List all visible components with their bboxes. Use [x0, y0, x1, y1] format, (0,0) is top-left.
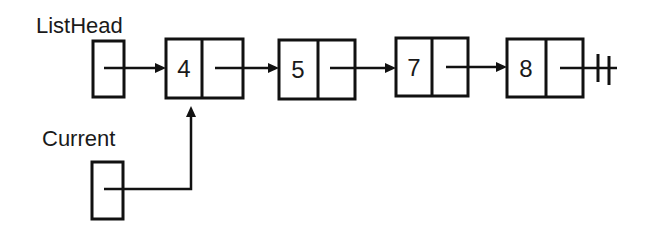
node-value: 7: [407, 54, 420, 81]
current-arrow-icon: [104, 106, 196, 189]
null-ground-icon: [560, 54, 617, 85]
node-value: 4: [177, 55, 190, 82]
node-value: 8: [519, 55, 532, 82]
current-label: Current: [42, 126, 115, 151]
next-arrow-icon: [446, 62, 507, 72]
current-pointer-box: [92, 162, 123, 219]
list-head-label: ListHead: [36, 13, 123, 38]
node-5: 5: [279, 40, 355, 99]
list-head-arrow-icon: [104, 63, 166, 73]
next-arrow-icon: [215, 63, 279, 73]
linked-list-diagram: ListHead 4 5 7 8: [0, 0, 647, 237]
node-value: 5: [291, 56, 304, 83]
next-arrow-icon: [330, 63, 396, 73]
